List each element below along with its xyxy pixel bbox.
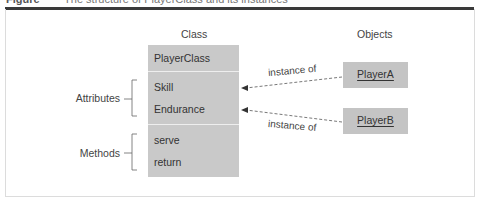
arrowhead-icon xyxy=(241,107,248,113)
diagram-connectors xyxy=(0,0,478,201)
methods-bracket-icon xyxy=(132,134,137,170)
attributes-bracket-icon xyxy=(132,80,137,116)
arrowhead-icon xyxy=(241,85,248,91)
